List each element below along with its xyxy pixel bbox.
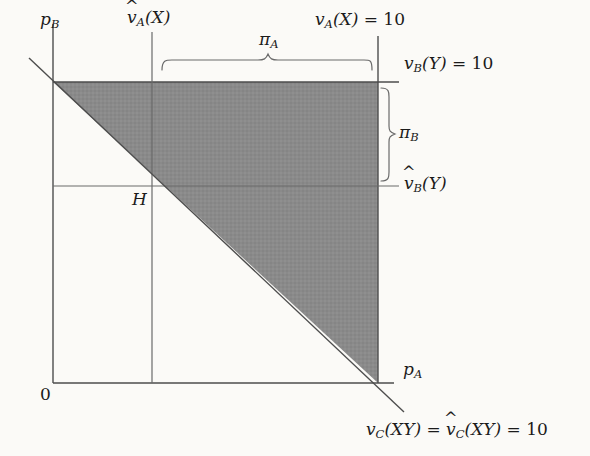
label-pi-b: πB bbox=[399, 124, 419, 144]
label-v-b-hat-y: ^vB(Y) bbox=[404, 175, 447, 195]
label-pi-a: πA bbox=[259, 31, 279, 51]
brace-pi-a bbox=[162, 54, 372, 70]
label-point-h: H bbox=[132, 191, 147, 208]
label-p-b: pB bbox=[40, 11, 59, 31]
label-p-a: pA bbox=[403, 361, 422, 381]
diagram-canvas: pB ^vA(X) vA(X) = 10 πA vB(Y) = 10 πB ^v… bbox=[0, 0, 590, 456]
brace-pi-b bbox=[381, 88, 395, 181]
diagram-vector-layer bbox=[0, 0, 590, 456]
label-v-a-hat-x: ^vA(X) bbox=[127, 9, 170, 29]
label-v-a-x-equals-10: vA(X) = 10 bbox=[315, 11, 405, 31]
label-v-c-xy-equals-10: vC(XY) = ^vC(XY) = 10 bbox=[366, 421, 548, 441]
label-origin: 0 bbox=[40, 386, 51, 403]
label-v-b-y-equals-10: vB(Y) = 10 bbox=[404, 55, 493, 75]
